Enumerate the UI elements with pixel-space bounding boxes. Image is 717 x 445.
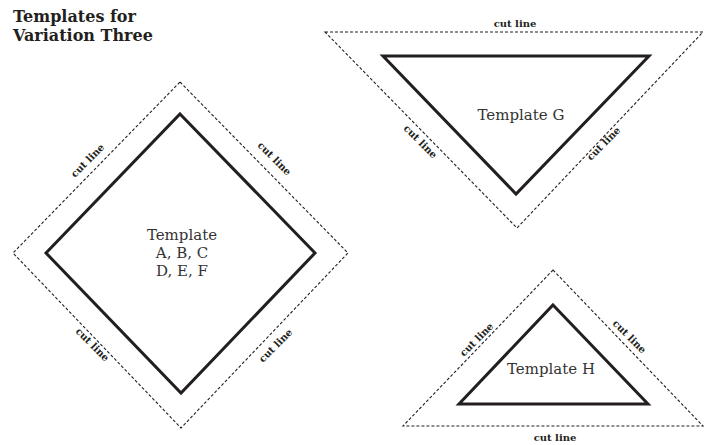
templates-diagram: cut line cut line cut line cut line Temp… — [0, 0, 717, 445]
cut-line-label-right: cut line — [585, 125, 623, 163]
template-label-line-3: D, E, F — [156, 262, 208, 280]
cut-line-label-left: cut line — [458, 321, 496, 359]
cut-line-label-bottom-right: cut line — [257, 327, 295, 365]
template-abcdef: cut line cut line cut line cut line Temp… — [13, 82, 348, 428]
template-label-line-2: A, B, C — [155, 244, 208, 262]
template-outline — [383, 56, 649, 194]
template-label-line-1: Template — [147, 226, 217, 244]
cut-line-label-bottom: cut line — [534, 432, 577, 443]
template-g: cut line cut line cut line Template G — [325, 18, 703, 228]
cut-line-label-bottom-left: cut line — [73, 326, 111, 364]
cut-line-label-top-right: cut line — [255, 140, 293, 178]
cut-line-label-top-left: cut line — [69, 142, 107, 180]
cut-line-outline — [325, 32, 703, 228]
cut-line-label-top: cut line — [494, 18, 537, 29]
template-label: Template G — [478, 106, 565, 124]
template-h: cut line cut line cut line Template H — [403, 270, 703, 443]
template-label: Template H — [507, 360, 595, 378]
cut-line-label-left: cut line — [401, 123, 439, 161]
